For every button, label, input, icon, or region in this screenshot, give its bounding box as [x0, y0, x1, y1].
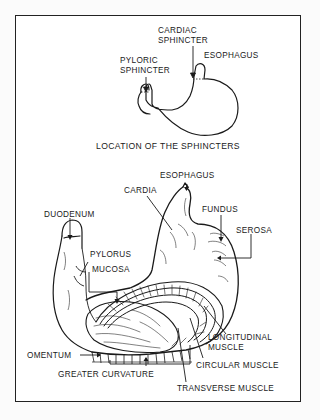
- label-longitudinal-muscle-line2: MUSCLE: [208, 343, 272, 353]
- label-cardiac-sphincter: CARDIAC SPHINCTER: [158, 26, 208, 45]
- label-transverse-muscle: TRANSVERSE MUSCLE: [177, 384, 274, 394]
- label-cardiac-sphincter-line2: SPHINCTER: [158, 36, 208, 46]
- label-cardiac-sphincter-line1: CARDIAC: [158, 26, 208, 36]
- label-pylorus: PYLORUS: [90, 250, 131, 260]
- top-diagram-caption: LOCATION OF THE SPHINCTERS: [96, 141, 240, 151]
- label-mucosa: MUCOSA: [92, 265, 130, 275]
- label-circular-muscle: CIRCULAR MUSCLE: [196, 361, 279, 371]
- label-pyloric-sphincter-line1: PYLORIC: [120, 56, 170, 66]
- label-longitudinal-muscle-line1: LONGITUDINAL: [208, 333, 272, 343]
- label-pyloric-sphincter: PYLORIC SPHINCTER: [120, 56, 170, 75]
- label-esophagus-bottom: ESOPHAGUS: [160, 171, 215, 181]
- label-longitudinal-muscle: LONGITUDINAL MUSCLE: [208, 333, 272, 352]
- label-pyloric-sphincter-line2: SPHINCTER: [120, 66, 170, 76]
- label-cardia: CARDIA: [124, 186, 157, 196]
- label-esophagus-top: ESOPHAGUS: [204, 51, 259, 61]
- label-greater-curvature: GREATER CURVATURE: [58, 370, 154, 380]
- label-fundus: FUNDUS: [202, 205, 238, 215]
- label-omentum: OMENTUM: [27, 351, 71, 361]
- label-serosa: SEROSA: [236, 226, 272, 236]
- label-duodenum: DUODENUM: [44, 210, 95, 220]
